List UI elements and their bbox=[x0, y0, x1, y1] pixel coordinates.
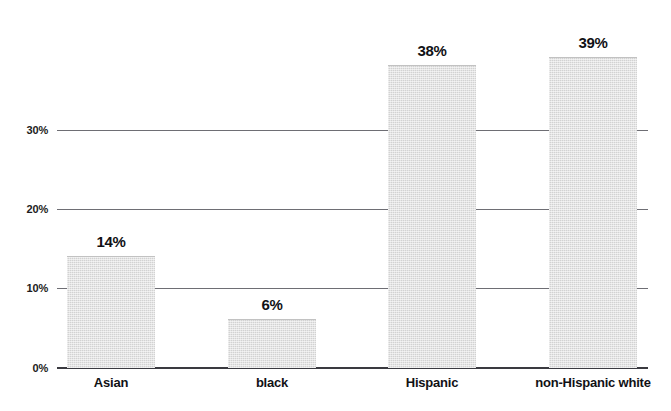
category-label-asian: Asian bbox=[67, 375, 155, 390]
bar-value-hispanic: 38% bbox=[388, 42, 476, 59]
y-tick-label-20: 20% bbox=[4, 203, 48, 215]
bar-chart: 0% 10% 20% 30% 14% 6% 38% 39% Asian blac… bbox=[0, 0, 671, 411]
bar-value-non-hispanic-white: 39% bbox=[549, 34, 637, 51]
bar-asian bbox=[67, 256, 155, 368]
bar-black bbox=[228, 319, 316, 368]
bar-hispanic bbox=[388, 65, 476, 368]
plot-area: 0% 10% 20% 30% 14% 6% 38% 39% Asian blac… bbox=[0, 0, 671, 411]
category-label-hispanic: Hispanic bbox=[388, 375, 476, 390]
y-tick-label-10: 10% bbox=[4, 282, 48, 294]
bar-non-hispanic-white bbox=[549, 57, 637, 368]
y-tick-label-30: 30% bbox=[4, 124, 48, 136]
category-label-black: black bbox=[228, 375, 316, 390]
bar-value-asian: 14% bbox=[67, 233, 155, 250]
bar-value-black: 6% bbox=[228, 296, 316, 313]
y-tick-label-0: 0% bbox=[4, 362, 48, 374]
category-label-non-hispanic-white: non-Hispanic white bbox=[529, 375, 657, 390]
